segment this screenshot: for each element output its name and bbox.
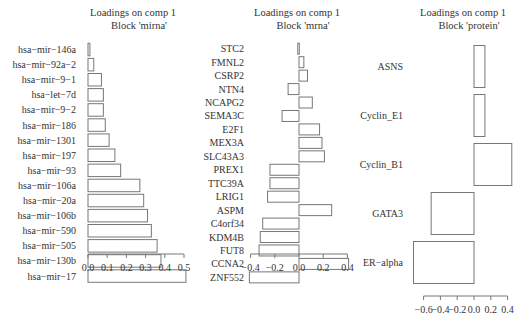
x-tick-label: 0.0	[293, 262, 306, 273]
bar-hsa-mir-146a	[88, 43, 90, 56]
panel-subtitle: Block 'protein'	[438, 20, 499, 31]
bar-hsa-mir-1301	[88, 134, 109, 147]
category-label: hsa−mir−1301	[18, 135, 77, 146]
category-label: SLC43A3	[203, 151, 244, 162]
bar-hsa-mir-92a-2	[88, 58, 94, 71]
category-label: CCNA2	[211, 258, 244, 269]
category-label: NCAPG2	[205, 97, 244, 108]
bar-hsa-mir-20a	[88, 194, 144, 207]
panel-title: Loadings on comp 1	[254, 7, 340, 18]
bar-hsa-mir-9-1	[88, 74, 101, 87]
x-tick-label: 0.3	[139, 262, 152, 273]
category-label: hsa−mir−106b	[18, 210, 77, 221]
x-tick-label: −0.2	[266, 262, 284, 273]
bar-prex1	[270, 164, 299, 175]
category-label: FMNL2	[211, 57, 244, 68]
bar-kdm4b	[260, 232, 299, 243]
category-label: TTC39A	[208, 178, 245, 189]
x-tick-label: 0.4	[159, 262, 172, 273]
category-label: Cyclin_E1	[360, 110, 403, 121]
x-tick-label: 0.4	[501, 304, 514, 315]
bar-cyclin_e1	[474, 95, 485, 137]
panel-title: Loadings on comp 1	[420, 7, 506, 18]
category-label: hsa−mir−93	[28, 165, 77, 176]
panel-title: Loadings on comp 1	[90, 7, 176, 18]
category-label: ZNF552	[210, 272, 244, 283]
chart-canvas: Loadings on comp 1Block 'mirna'hsa−mir−1…	[0, 0, 530, 327]
bar-gata3	[431, 193, 474, 235]
bar-slc43a3	[299, 151, 324, 162]
panel-mrna: Loadings on comp 1Block 'mrna'STC2FMNL2C…	[203, 7, 353, 283]
category-label: Cyclin_B1	[360, 159, 403, 170]
bar-hsa-mir-505	[88, 240, 157, 253]
category-label: hsa−mir−590	[23, 225, 77, 236]
category-label: hsa−mir−92a−2	[12, 59, 76, 70]
panel-subtitle: Block 'mirna'	[111, 20, 167, 31]
category-label: hsa−mir−505	[23, 240, 77, 251]
x-tick-label: −0.4	[431, 304, 449, 315]
bar-csrp2	[299, 70, 307, 81]
x-tick-label: 0.4	[341, 262, 354, 273]
bar-lrig1	[268, 191, 299, 202]
category-label: PREX1	[213, 164, 244, 175]
category-label: ASPM	[217, 205, 244, 216]
bar-hsa-mir-197	[88, 149, 115, 162]
category-label: GATA3	[372, 208, 403, 219]
category-label: hsa−mir−106a	[18, 180, 76, 191]
x-tick-label: 0.1	[101, 262, 114, 273]
bar-aspm	[299, 205, 332, 216]
bar-sema3c	[282, 110, 299, 121]
bar-e2f1	[299, 124, 320, 135]
x-tick-label: 0.2	[485, 304, 498, 315]
x-tick-label: −0.2	[448, 304, 466, 315]
category-label: hsa−mir−146a	[18, 44, 76, 55]
bar-asns	[474, 46, 485, 88]
category-label: hsa−mir−197	[23, 150, 77, 161]
bar-hsa-mir-9-2	[88, 104, 103, 117]
category-label: STC2	[221, 43, 244, 54]
x-tick-label: 0.0	[468, 304, 481, 315]
x-tick-label: 0.0	[82, 262, 95, 273]
bar-ntn4	[288, 84, 299, 95]
bar-c4orf34	[263, 218, 299, 229]
category-label: MEX3A	[210, 137, 245, 148]
x-tick-label: 0.5	[178, 262, 191, 273]
category-label: hsa−let−7d	[31, 89, 76, 100]
bar-hsa-mir-106b	[88, 209, 148, 222]
category-label: CSRP2	[215, 70, 244, 81]
panel-protein: Loadings on comp 1Block 'protein'ASNSCyc…	[360, 7, 514, 315]
bar-hsa-mir-590	[88, 225, 151, 238]
category-label: hsa−mir−17	[28, 271, 77, 282]
x-tick-label: −0.6	[415, 304, 433, 315]
category-label: LRIG1	[216, 191, 244, 202]
category-label: C4orf34	[211, 218, 244, 229]
bar-hsa-mir-93	[88, 164, 121, 177]
category-label: E2F1	[222, 124, 244, 135]
category-label: hsa−mir−9−1	[22, 74, 76, 85]
category-label: FUT8	[220, 245, 244, 256]
x-tick-label: 0.2	[120, 262, 133, 273]
bar-znf552	[249, 272, 299, 283]
bar-mex3a	[299, 137, 322, 148]
panel-mirna: Loadings on comp 1Block 'mirna'hsa−mir−1…	[12, 7, 190, 282]
bar-hsa-mir-106a	[88, 179, 140, 192]
x-tick-label: −0.4	[242, 262, 260, 273]
category-label: hsa−mir−9−2	[22, 104, 76, 115]
bar-stc2	[298, 43, 300, 54]
bar-fmnl2	[299, 57, 304, 68]
bar-cyclin_b1	[474, 144, 512, 186]
category-label: ER−alpha	[363, 257, 404, 268]
panel-subtitle: Block 'mrna'	[276, 20, 329, 31]
loadings-chart-figure: Loadings on comp 1Block 'mirna'hsa−mir−1…	[0, 0, 530, 327]
category-label: SEMA3C	[205, 110, 245, 121]
bar-ttc39a	[270, 178, 299, 189]
category-label: hsa−mir−186	[23, 120, 77, 131]
bar-hsa-let-7d	[88, 89, 103, 102]
category-label: hsa−mir−20a	[23, 195, 76, 206]
bar-er-alpha	[414, 242, 474, 284]
category-label: KDM4B	[209, 232, 244, 243]
category-label: ASNS	[377, 61, 403, 72]
bar-hsa-mir-186	[88, 119, 105, 132]
x-tick-label: 0.2	[317, 262, 330, 273]
category-label: NTN4	[218, 84, 244, 95]
